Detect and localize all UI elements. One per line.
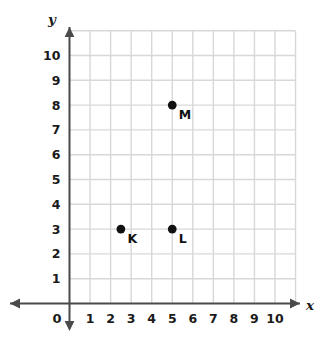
x-tick-label: 10: [266, 311, 284, 326]
y-tick-label: 6: [52, 147, 61, 162]
point-label: K: [127, 231, 138, 246]
y-axis-name-label: y: [47, 11, 57, 27]
x-axis-name-label: x: [305, 297, 315, 313]
y-tick-label: 7: [52, 122, 61, 137]
x-tick-label: 7: [209, 311, 218, 326]
point-label: L: [179, 231, 187, 246]
y-tick-label: 10: [43, 48, 61, 63]
point-marker: [168, 101, 177, 110]
x-tick-label: 2: [106, 311, 115, 326]
y-tick-label: 5: [52, 172, 61, 187]
point-label: M: [179, 107, 191, 122]
x-tick-label: 6: [188, 311, 197, 326]
point-marker: [168, 225, 177, 234]
x-tick-label: 8: [230, 311, 239, 326]
point-marker: [116, 225, 125, 234]
x-tick-label: 5: [168, 311, 177, 326]
coordinate-plane-figure: 12345678910 12345678910 0 x y KLM: [0, 0, 321, 337]
y-tick-label: 2: [52, 246, 61, 261]
y-tick-label: 3: [52, 222, 61, 237]
y-tick-label: 4: [52, 197, 61, 212]
y-tick-label: 9: [52, 73, 61, 88]
x-tick-label: 1: [86, 311, 95, 326]
x-tick-label: 4: [147, 311, 156, 326]
x-tick-label: 3: [127, 311, 136, 326]
origin-label: 0: [52, 311, 61, 326]
x-tick-label: 9: [250, 311, 259, 326]
y-tick-label: 8: [52, 98, 61, 113]
y-tick-label: 1: [52, 271, 61, 286]
coordinate-plane-svg: 12345678910 12345678910 0 x y KLM: [0, 0, 321, 337]
